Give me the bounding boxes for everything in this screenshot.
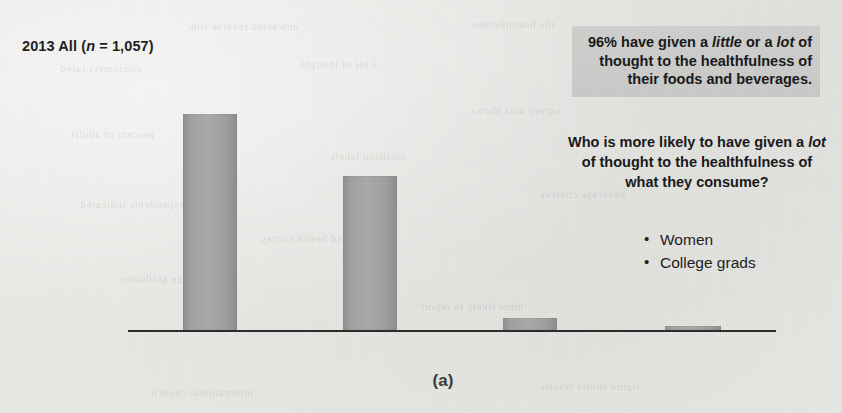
bar-not-sure[interactable] bbox=[665, 326, 721, 330]
answer-list: Women College grads bbox=[644, 228, 756, 274]
callout-question-part2: of thought to the healthfulness of what … bbox=[582, 154, 812, 190]
bar-none[interactable] bbox=[503, 318, 557, 330]
list-item: Women bbox=[644, 228, 756, 251]
figure-caption: (a) bbox=[363, 371, 523, 391]
callout-primary-part1: 96% have given a bbox=[588, 34, 712, 50]
callout-question-part1: Who is more likely to have given a bbox=[568, 134, 808, 150]
figure-page: unwanted reverse sidethe healthfulnessco… bbox=[0, 0, 842, 413]
x-axis-line bbox=[128, 330, 776, 332]
callout-primary-emphasis-little: little bbox=[712, 34, 742, 50]
callout-primary-part2: or a bbox=[742, 34, 777, 50]
callout-question-emphasis-lot: lot bbox=[808, 134, 826, 150]
bar-a-little[interactable] bbox=[343, 176, 397, 330]
callout-question: Who is more likely to have given a lot o… bbox=[566, 132, 828, 192]
bar-a-lot[interactable] bbox=[183, 114, 237, 330]
list-item: College grads bbox=[644, 251, 756, 274]
callout-primary: 96% have given a little or a lot of thou… bbox=[572, 26, 820, 97]
callout-primary-emphasis-lot: lot bbox=[777, 34, 795, 50]
